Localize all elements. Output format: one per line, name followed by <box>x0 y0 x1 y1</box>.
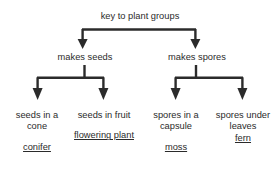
spacer <box>70 121 138 130</box>
left-branch-bracket <box>37 65 104 88</box>
leaf-description: spores under leaves <box>214 110 272 133</box>
root-bracket <box>82 29 196 40</box>
arrowhead-spores-under-leaves <box>237 88 247 100</box>
leaf-node-moss: spores in a capsule moss <box>142 110 210 154</box>
arrowhead-spores-in-a-capsule <box>171 88 181 100</box>
leaf-term: flowering plant <box>70 130 138 142</box>
leaf-node-flowering-plant: seeds in fruit flowering plant <box>70 110 138 142</box>
branch-node-makes-seeds: makes seeds <box>42 52 128 63</box>
leaf-description: seeds in fruit <box>70 110 138 121</box>
right-branch-bracket <box>175 65 243 88</box>
spacer <box>142 133 210 142</box>
leaf-node-conifer: seeds in a cone conifer <box>6 110 68 154</box>
leaf-term: conifer <box>6 142 68 154</box>
branch-node-makes-spores: makes spores <box>152 52 242 63</box>
leaf-term: moss <box>142 142 210 154</box>
leaf-description: spores in a capsule <box>142 110 210 133</box>
arrowhead-seeds-in-fruit <box>98 88 108 100</box>
arrowhead-makes-spores <box>190 39 200 49</box>
arrowhead-makes-seeds <box>78 39 88 49</box>
leaf-description: seeds in a cone <box>6 110 68 133</box>
spacer <box>6 133 68 142</box>
leaf-node-fern: spores under leaves fern <box>214 110 272 145</box>
leaf-term: fern <box>214 133 272 145</box>
arrowhead-seeds-in-a-cone <box>33 88 43 100</box>
root-node-label: key to plant groups <box>74 11 206 22</box>
plant-groups-key-diagram: key to plant groups makes seeds makes sp… <box>0 0 277 180</box>
